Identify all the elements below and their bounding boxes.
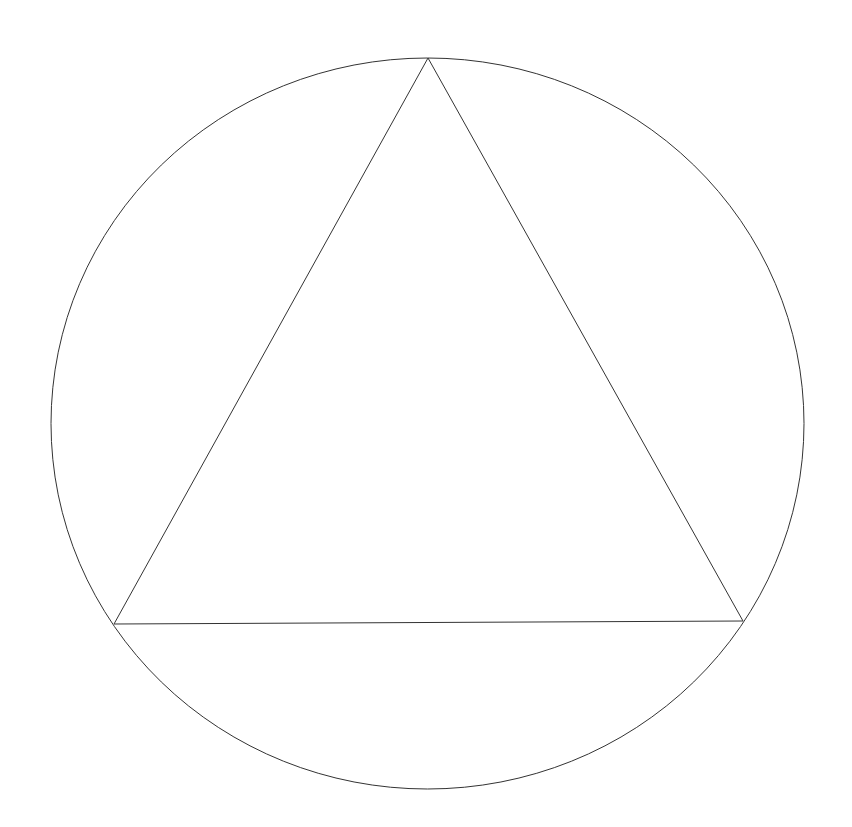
circumscribed-circle [51, 58, 804, 789]
inscribed-triangle [114, 58, 743, 624]
geometry-diagram [0, 0, 852, 827]
